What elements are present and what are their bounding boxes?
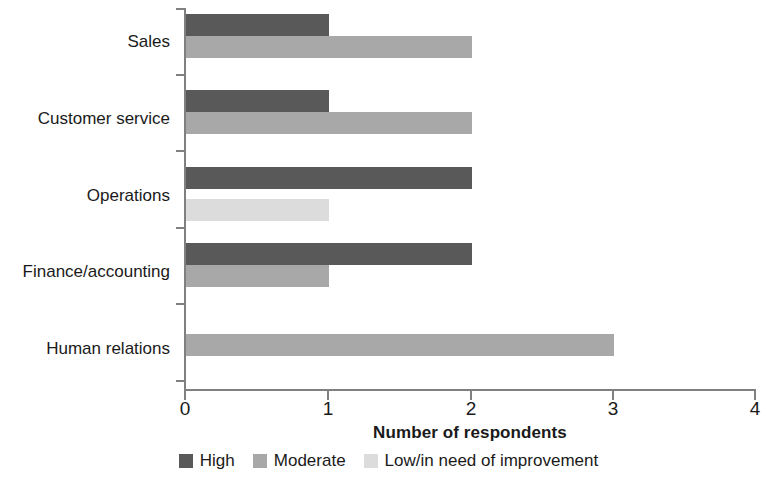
category-label-human-relations: Human relations (0, 339, 170, 359)
x-axis-tick-label: 3 (593, 397, 633, 421)
category-label-sales: Sales (0, 32, 170, 52)
x-axis-tick-label: 2 (451, 397, 491, 421)
bar-customer-service-moderate (186, 112, 472, 134)
x-axis-tick-label: 0 (165, 397, 205, 421)
legend-swatch-icon (364, 454, 378, 468)
legend-swatch-icon (179, 454, 193, 468)
x-axis-tick-label: 1 (308, 397, 348, 421)
y-axis-tick (176, 74, 185, 76)
bar-operations-high (186, 167, 472, 189)
y-axis-tick (176, 150, 185, 152)
y-axis-tick (176, 227, 185, 229)
legend-label: High (200, 451, 235, 471)
bar-human-relations-moderate (186, 334, 614, 356)
bar-customer-service-high (186, 90, 329, 112)
legend-label: Low/in need of improvement (385, 451, 599, 471)
y-axis-tick (176, 380, 185, 382)
legend: High Moderate Low/in need of improvement (0, 451, 777, 471)
legend-item-high[interactable]: High (179, 451, 235, 471)
bar-chart: 0 1 2 3 4 Sales Customer service Operati… (0, 0, 777, 477)
category-label-finance-accounting: Finance/accounting (0, 262, 170, 282)
category-label-customer-service: Customer service (0, 109, 170, 129)
legend-item-low[interactable]: Low/in need of improvement (364, 451, 599, 471)
bar-sales-moderate (186, 36, 472, 58)
y-axis-tick (176, 303, 185, 305)
bar-finance-accounting-moderate (186, 265, 329, 287)
legend-item-moderate[interactable]: Moderate (253, 451, 346, 471)
x-axis-title: Number of respondents (184, 423, 756, 443)
bar-sales-high (186, 14, 329, 36)
legend-swatch-icon (253, 454, 267, 468)
bar-finance-accounting-high (186, 243, 472, 265)
category-label-operations: Operations (0, 186, 170, 206)
bar-operations-low (186, 199, 329, 221)
y-axis-tick (176, 8, 185, 10)
legend-label: Moderate (274, 451, 346, 471)
x-axis-tick-label: 4 (735, 397, 775, 421)
